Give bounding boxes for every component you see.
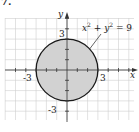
x-tick-label-neg3: -3: [23, 73, 32, 83]
x-axis-label: x: [130, 70, 135, 80]
equation-leader-line: [90, 34, 101, 49]
y-axis-arrow-icon: [65, 12, 69, 18]
equation-label: x2 + y2 = 9: [82, 21, 132, 33]
eq-plus: +: [91, 23, 104, 33]
x-tick-label-3: 3: [100, 73, 106, 83]
y-tick-label-neg3: -3: [48, 105, 57, 115]
y-axis-label: y: [57, 9, 64, 19]
chart: x2 + y2 = 9 x y -3 3 3 -3: [0, 0, 139, 132]
y-tick-label-3: 3: [59, 29, 65, 39]
eq-rhs: = 9: [113, 23, 132, 33]
